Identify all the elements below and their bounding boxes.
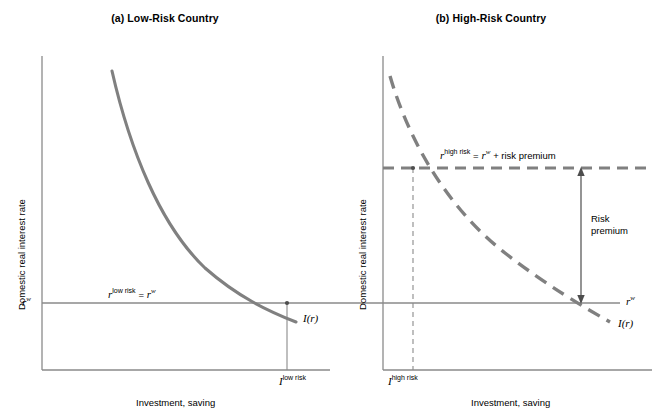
risk-premium-line-2: premium (591, 225, 628, 237)
panel-b-world-rate-label: rw (626, 295, 635, 307)
risk-premium-line-1: Risk (591, 213, 628, 225)
panel-b-plot (330, 0, 652, 415)
panel-a-x-axis-label: Investment, saving (136, 397, 215, 408)
panel-a-world-rate-tick-label: rw (22, 296, 31, 308)
panel-a-quantity-label: Ilow risk (279, 374, 306, 387)
panel-a-equilibrium-point (285, 301, 289, 305)
panel-high-risk-country: (b) High-Risk Country Domestic real inte… (330, 0, 652, 415)
panel-b-investment-curve (390, 76, 610, 322)
panel-a-investment-curve (112, 71, 296, 322)
panel-a-equilibrium-rate-label: rlow risk = rw (108, 287, 156, 300)
panel-low-risk-country: (a) Low-Risk Country Domestic real inter… (0, 0, 330, 415)
panel-b-risk-premium-annotation: Risk premium (591, 213, 628, 237)
panel-a-plot (0, 0, 330, 415)
panel-b-y-axis-label: Domestic real interest rate (357, 199, 368, 310)
panel-a-investment-curve-label: I(r) (303, 313, 318, 324)
panel-b-equilibrium-rate-label: rhigh risk = rw + risk premium (440, 148, 556, 161)
panel-b-equilibrium-point (411, 166, 415, 170)
panel-b-x-axis-label: Investment, saving (471, 397, 550, 408)
panel-b-investment-curve-label: I(r) (618, 318, 633, 329)
panel-a-y-axis-label: Domestic real interest rate (16, 199, 27, 310)
panel-b-quantity-label: Ihigh risk (388, 374, 418, 387)
